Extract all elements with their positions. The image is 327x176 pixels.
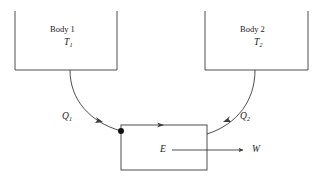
work-symbol-label: W (252, 145, 260, 155)
thermodynamics-diagram: Body 1 T1 Body 2 T2 Q1 Q2 E W (0, 0, 327, 176)
body-2-temperature-label: T2 (254, 38, 262, 48)
q2-symbol: Q (240, 111, 247, 121)
q1-flow-arrow (70, 70, 121, 131)
body-2-temp-subscript: 2 (259, 41, 262, 48)
body-2-label: Body 2 (240, 25, 265, 34)
engine-symbol-label: E (160, 145, 166, 155)
junction-dot (118, 128, 124, 134)
body-1-label: Body 1 (50, 25, 75, 34)
q1-heat-flow-label: Q1 (62, 112, 72, 122)
body-1-temperature-label: T1 (64, 38, 72, 48)
q2-subscript: 2 (247, 115, 250, 122)
q1-subscript: 1 (69, 115, 72, 122)
body-1-temp-subscript: 1 (69, 41, 72, 48)
q2-heat-flow-label: Q2 (240, 112, 250, 122)
q1-symbol: Q (62, 111, 69, 121)
q2-flow-arrow (207, 70, 255, 134)
